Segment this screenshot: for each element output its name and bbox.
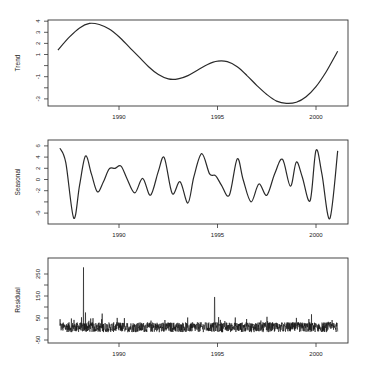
- trend-y-label: Trend: [14, 54, 21, 71]
- x-tick-label: 1990: [112, 351, 126, 357]
- y-tick-label: -3: [35, 96, 41, 102]
- x-tick-label: 1990: [112, 114, 126, 120]
- trend-x-axis: 199019952000: [112, 106, 323, 120]
- y-tick-label: -1: [35, 73, 41, 79]
- seasonal-y-label: Seasonal: [14, 168, 21, 196]
- x-tick-label: 1995: [211, 232, 225, 238]
- y-tick-label: 1: [35, 52, 41, 56]
- y-tick-label: 6: [35, 144, 41, 148]
- x-tick-label: 1995: [211, 114, 225, 120]
- residual-line: [60, 267, 338, 332]
- x-tick-label: 2000: [309, 232, 323, 238]
- y-tick-label: 250: [35, 268, 41, 279]
- residual-panel: -5050150250 199019952000 Residual: [14, 258, 348, 357]
- y-tick-label: 2: [35, 41, 41, 45]
- x-tick-label: 1990: [112, 232, 126, 238]
- y-tick-label: 4: [35, 19, 41, 23]
- decomposition-figure: -3-11234 199019952000 Trend -6-20246 199…: [0, 0, 368, 378]
- residual-y-label: Residual: [14, 287, 21, 313]
- seasonal-panel: -6-20246 199019952000 Seasonal: [14, 140, 348, 238]
- y-tick-label: -6: [35, 210, 41, 216]
- x-tick-label: 1995: [211, 351, 225, 357]
- y-tick-label: 0: [35, 177, 41, 181]
- y-tick-label: -50: [35, 335, 41, 344]
- y-tick-label: -2: [35, 187, 41, 193]
- residual-y-axis: -5050150250: [35, 268, 48, 344]
- y-tick-label: 50: [35, 314, 41, 321]
- trend-plot-frame: [48, 20, 348, 106]
- trend-line: [58, 23, 338, 103]
- x-tick-label: 2000: [309, 114, 323, 120]
- seasonal-line: [60, 148, 338, 219]
- y-tick-label: 150: [35, 290, 41, 301]
- seasonal-plot-frame: [48, 140, 348, 224]
- trend-panel: -3-11234 199019952000 Trend: [14, 19, 348, 120]
- seasonal-x-axis: 199019952000: [112, 224, 323, 238]
- residual-x-axis: 199019952000: [112, 343, 323, 357]
- y-tick-label: 3: [35, 30, 41, 34]
- x-tick-label: 2000: [309, 351, 323, 357]
- y-tick-label: 2: [35, 166, 41, 170]
- seasonal-y-axis: -6-20246: [35, 144, 48, 216]
- trend-y-axis: -3-11234: [35, 19, 48, 102]
- y-tick-label: 4: [35, 155, 41, 159]
